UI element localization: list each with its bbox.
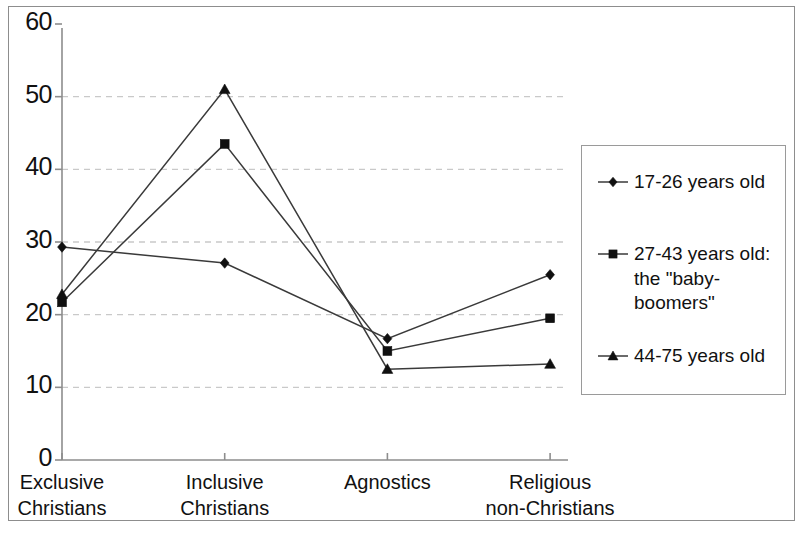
data-point-marker [546,270,555,280]
y-axis-tick-label: 50 [0,80,52,109]
legend-entry-3: 44-75 years old [596,344,765,369]
y-axis-tick-label: 0 [0,443,52,472]
legend-label: 44-75 years old [634,344,765,369]
legend-label: 17-26 years old [634,170,765,195]
data-point-marker [220,258,229,268]
triangle-marker-icon [596,345,630,365]
y-axis-tick-label: 10 [0,370,52,399]
legend-entry-1: 17-26 years old [596,170,765,195]
data-point-marker [383,333,392,343]
data-point-marker [58,242,67,252]
x-axis-tick-label: Religious non-Christians [455,469,645,522]
y-axis-tick-label: 40 [0,152,52,181]
series-line-3 [62,89,550,369]
legend-label: 27-43 years old: the "baby-boomers" [634,242,785,316]
data-point-marker [546,314,555,323]
data-point-marker [383,347,392,356]
y-axis-tick-label: 20 [0,298,52,327]
chart-legend: 17-26 years old27-43 years old: the "bab… [581,145,786,395]
data-point-marker [58,298,67,307]
diamond-marker-icon [596,171,630,191]
x-axis-tick-label: Inclusive Christians [130,469,320,522]
series-line-2 [62,144,550,351]
series-line-1 [62,247,550,339]
data-point-marker [220,140,229,149]
square-marker-icon [596,243,630,263]
x-axis-tick-label: Agnostics [292,469,482,495]
legend-entry-2: 27-43 years old: the "baby-boomers" [596,242,785,316]
chart-figure: 0102030405060 Exclusive ChristiansInclus… [0,0,803,537]
data-point-marker [219,84,230,94]
y-axis-tick-label: 60 [0,7,52,36]
y-axis-tick-label: 30 [0,225,52,254]
